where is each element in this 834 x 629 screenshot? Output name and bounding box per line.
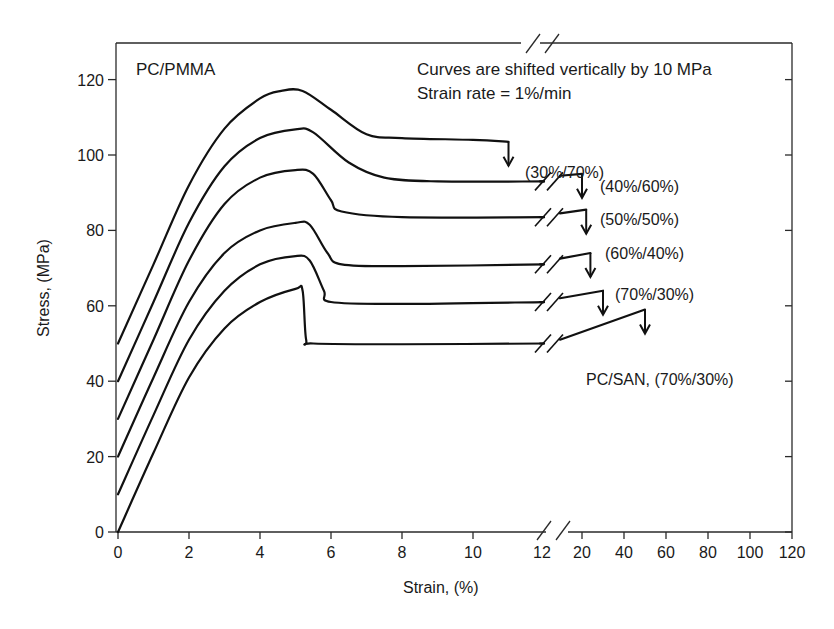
y-tick-label: 120 — [77, 72, 104, 89]
x-tick-label: 120 — [779, 544, 806, 561]
series-label: PC/SAN, (70%/30%) — [586, 371, 734, 388]
curve-segment-right — [560, 210, 586, 214]
curves — [118, 89, 650, 532]
y-tick-label: 80 — [86, 222, 104, 239]
series-label: (30%/70%) — [525, 164, 604, 181]
y-tick-label: 100 — [77, 147, 104, 164]
x-tick-label: 80 — [699, 544, 717, 561]
axis-ticks: 02040608010012002468101220406080100120 — [77, 72, 805, 561]
series-label: (60%/40%) — [605, 245, 684, 262]
note-line-2: Strain rate = 1%/min — [417, 84, 572, 103]
y-tick-label: 20 — [86, 449, 104, 466]
series-label: (50%/50%) — [600, 211, 679, 228]
stress-strain-curve — [118, 286, 544, 532]
series-label: (70%/30%) — [615, 286, 694, 303]
x-tick-label: 60 — [657, 544, 675, 561]
labels: (30%/70%)(40%/60%)(50%/50%)(60%/40%)(70%… — [525, 164, 734, 388]
y-tick-label: 0 — [95, 524, 104, 541]
top-break-mark — [526, 34, 540, 53]
x-tick-label: 8 — [398, 544, 407, 561]
bottom-break-mark — [556, 521, 570, 540]
bottom-break-mark — [537, 521, 551, 540]
x-tick-label: 100 — [737, 544, 764, 561]
x-tick-label: 12 — [533, 544, 551, 561]
x-tick-label: 10 — [464, 544, 482, 561]
x-tick-label: 6 — [327, 544, 336, 561]
stress-strain-curve — [118, 256, 544, 495]
system-label: PC/PMMA — [136, 60, 216, 79]
y-tick-label: 40 — [86, 373, 104, 390]
note-line-1: Curves are shifted vertically by 10 MPa — [417, 60, 712, 79]
x-tick-label: 20 — [573, 544, 591, 561]
stress-strain-curve — [118, 89, 509, 343]
stress-strain-chart: 02040608010012002468101220406080100120 (… — [0, 0, 834, 629]
x-tick-label: 2 — [185, 544, 194, 561]
stress-strain-curve — [118, 170, 544, 419]
curve-segment-right — [560, 291, 603, 299]
stress-strain-curve — [118, 222, 544, 457]
y-tick-label: 60 — [86, 298, 104, 315]
series-label: (40%/60%) — [600, 178, 679, 195]
curve-segment-right — [560, 253, 590, 259]
x-tick-label: 4 — [256, 544, 265, 561]
x-tick-label: 0 — [114, 544, 123, 561]
y-axis-label: Stress, (MPa) — [35, 239, 52, 337]
x-tick-label: 40 — [615, 544, 633, 561]
x-axis-label: Strain, (%) — [403, 579, 479, 596]
